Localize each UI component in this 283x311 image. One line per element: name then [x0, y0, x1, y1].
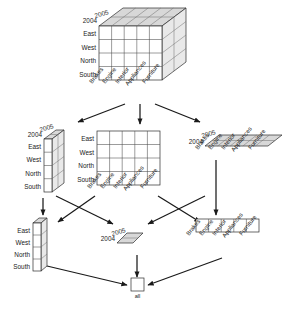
- cuboid-region-product-east: East: [81, 135, 94, 142]
- edge-base-to-region-time: [78, 104, 125, 122]
- cuboid-region-product-north: North: [78, 162, 94, 169]
- cuboid-region-product-west: West: [80, 149, 95, 156]
- edge-product-to-apex: [148, 258, 222, 285]
- edge-base-to-product-time: [155, 104, 200, 122]
- cuboid-time-2004: 2004: [101, 235, 116, 242]
- base-cuboid-time-2004: 2004: [83, 17, 98, 24]
- base-cuboid-region-west: West: [82, 44, 97, 51]
- cuboid-region-time-south: South: [24, 183, 41, 190]
- cube-lattice-diagram: 2005 2004 East West North South Brakes E…: [0, 0, 283, 311]
- cuboid-region-east: East: [17, 227, 30, 234]
- cuboid-region[interactable]: East West North South: [13, 218, 47, 271]
- edge-region-to-apex: [47, 266, 127, 285]
- edge-region-time-to-time: [56, 196, 113, 224]
- base-cuboid[interactable]: 2005 2004 East West North South Brakes E…: [79, 8, 186, 87]
- base-cuboid-region-north: North: [80, 57, 96, 64]
- base-cuboid-region-east: East: [83, 30, 96, 37]
- cuboid-product[interactable]: Brakes Engine Interior Appliances Furnit…: [185, 212, 259, 239]
- cuboid-product-time[interactable]: 2005 2004 Brakes Engine Interior Applian…: [189, 126, 282, 153]
- cuboid-region-time-east: East: [28, 143, 41, 150]
- apex-cuboid[interactable]: all: [131, 278, 144, 299]
- diagram-canvas: 2005 2004 East West North South Brakes E…: [0, 0, 283, 311]
- cuboid-region-product[interactable]: East West North South Brakes Engine Inte…: [77, 131, 160, 192]
- apex-cuboid-label: all: [135, 293, 141, 299]
- cuboid-region-west: West: [16, 239, 31, 246]
- cuboid-region-time-2004: 2004: [28, 131, 43, 138]
- cuboid-region-time-west: West: [27, 156, 42, 163]
- cuboid-region-south: South: [13, 263, 30, 270]
- cuboid-region-time[interactable]: 2005 2004 East West North South: [24, 122, 64, 192]
- cuboid-time[interactable]: 2005 2004: [101, 226, 143, 243]
- cuboid-region-north: North: [14, 251, 30, 258]
- cuboid-region-time-north: North: [25, 170, 41, 177]
